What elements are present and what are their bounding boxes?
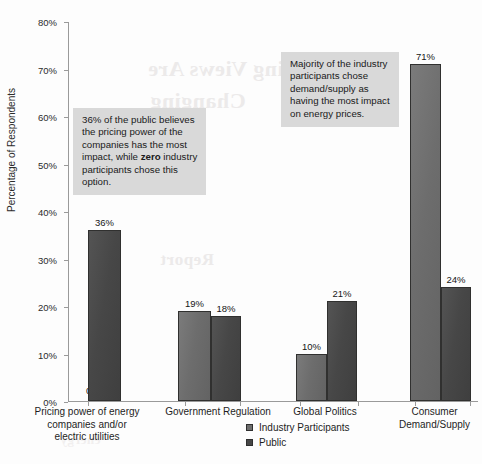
bar-industry-global-politics[interactable]: 10% [296,354,327,402]
bar-value-industry-global-politics: 10% [302,341,321,352]
bar-chart-figure: Heating Views Are Changing Report energy… [0,0,482,464]
bar-industry-government-regulation[interactable]: 19% [178,311,211,401]
legend-item-public[interactable]: Public [246,435,350,450]
annotation-right-text: Majority of the industry participants ch… [290,58,390,119]
y-tick-label-80: 80% [38,17,57,28]
bar-public-pricing-power[interactable]: 36% [88,230,121,401]
bar-value-public-consumer-demand-supply: 24% [446,274,465,285]
bar-value-public-global-politics: 21% [332,288,351,299]
y-tick-label-20: 20% [38,302,57,313]
y-axis-title: Percentage of Respondents [6,88,17,212]
legend-label-industry-participants: Industry Participants [259,422,350,433]
y-tick-label-60: 60% [38,112,57,123]
bar-value-public-government-regulation: 18% [216,303,235,314]
y-tick-40: 40% [64,212,68,213]
y-tick-label-70: 70% [38,64,57,75]
category-label-pricing-power-line3: electric utilities [0,431,174,444]
bar-public-consumer-demand-supply[interactable]: 24% [441,287,471,401]
category-label-consumer-demand-supply-line1: Consumer [387,406,482,419]
category-label-global-politics-line1: Global Politics [265,406,385,419]
chart-legend: Industry Participants Public [246,420,350,450]
y-tick-0: 0% [64,402,68,403]
category-label-consumer-demand-supply-line2: Demand/Supply [387,419,482,432]
y-tick-80: 80% [64,22,68,23]
x-axis-line [68,401,478,402]
y-tick-70: 70% [64,70,68,71]
annotation-callout-industry-demand-supply: Majority of the industry participants ch… [281,52,399,127]
y-tick-50: 50% [64,165,68,166]
category-label-consumer-demand-supply: Consumer Demand/Supply [387,406,482,431]
legend-swatch-icon-public [246,439,253,446]
y-tick-label-40: 40% [38,207,57,218]
annotation-callout-public-pricing-power: 36% of the public believes the pricing p… [73,108,206,195]
annotation-left-emphasis: zero [141,151,161,162]
plot-area: 80% 70% 60% 50% 40% 30% 20% 10% 0% [68,22,478,402]
y-tick-label-50: 50% [38,159,57,170]
bar-public-global-politics[interactable]: 21% [327,301,357,401]
category-label-pricing-power-line2: companies and/or [0,419,174,432]
bar-value-industry-government-regulation: 19% [185,298,204,309]
bar-value-industry-consumer-demand-supply: 71% [416,51,435,62]
category-label-global-politics: Global Politics [265,406,385,419]
y-tick-20: 20% [64,307,68,308]
legend-item-industry-participants[interactable]: Industry Participants [246,420,350,435]
y-tick-label-30: 30% [38,254,57,265]
y-tick-30: 30% [64,260,68,261]
bar-value-public-pricing-power: 36% [95,217,114,228]
legend-label-public: Public [259,437,286,448]
bar-public-government-regulation[interactable]: 18% [211,316,241,402]
y-axis-line [68,22,69,402]
y-tick-10: 10% [64,355,68,356]
y-tick-60: 60% [64,117,68,118]
bar-industry-consumer-demand-supply[interactable]: 71% [410,64,441,401]
y-tick-label-10: 10% [38,349,57,360]
legend-swatch-icon-industry-participants [246,424,253,431]
